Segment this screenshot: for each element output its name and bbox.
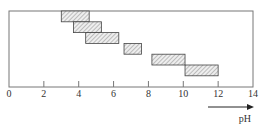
x-axis-title: pH: [239, 113, 251, 124]
arrow-head-icon: [247, 104, 254, 110]
range-bars: [61, 11, 218, 76]
ph-arrow: pH: [208, 104, 254, 124]
x-tick-label: 12: [213, 88, 223, 99]
range-bar: [73, 22, 101, 33]
x-tick-label: 10: [178, 88, 188, 99]
range-bar: [124, 43, 141, 54]
x-tick-label: 8: [146, 88, 151, 99]
x-tick-label: 14: [248, 88, 258, 99]
range-bar: [185, 65, 218, 76]
x-tick-label: 2: [41, 88, 46, 99]
x-tick-label: 0: [7, 88, 12, 99]
x-tick-label: 6: [111, 88, 116, 99]
range-bar: [152, 54, 185, 65]
x-axis: 02468101214: [7, 81, 259, 99]
range-bar: [61, 11, 89, 22]
x-tick-label: 4: [76, 88, 81, 99]
ph-range-chart: 02468101214 pH: [0, 0, 266, 126]
range-bar: [86, 33, 119, 44]
